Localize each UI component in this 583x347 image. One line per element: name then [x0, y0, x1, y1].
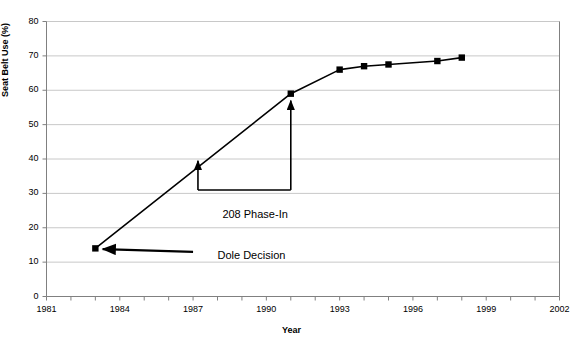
annotation-label-phase-in: 208 Phase-In: [222, 208, 287, 220]
y-tick-label: 20: [0, 222, 39, 232]
y-tick-label: 80: [0, 16, 39, 26]
x-axis-title: Year: [0, 325, 583, 335]
annotation-label-dole-decision: Dole Decision: [218, 249, 286, 261]
y-tick-label: 70: [0, 50, 39, 60]
x-tick-label: 1987: [163, 304, 223, 314]
chart-canvas: [0, 0, 583, 347]
y-tick-label: 30: [0, 187, 39, 197]
x-tick-label: 1999: [456, 304, 516, 314]
y-tick-label: 40: [0, 153, 39, 163]
x-tick-label: 2002: [530, 304, 583, 314]
data-point-marker: [434, 58, 440, 64]
y-tick-label: 0: [0, 291, 39, 301]
x-tick-label: 1990: [236, 304, 296, 314]
y-tick-label: 10: [0, 256, 39, 266]
y-tick-label: 50: [0, 119, 39, 129]
x-tick-label: 1996: [383, 304, 443, 314]
x-tick-label: 1981: [17, 304, 77, 314]
data-point-marker: [361, 63, 367, 69]
x-tick-label: 1984: [90, 304, 150, 314]
data-point-marker: [92, 245, 98, 251]
data-point-marker: [459, 54, 465, 60]
x-tick-label: 1993: [310, 304, 370, 314]
data-point-marker: [336, 66, 342, 72]
dole-decision-arrow: [103, 249, 193, 252]
data-point-marker: [288, 90, 294, 96]
seat-belt-use-line-chart: Seat Belt Use (%) Year 01020304050607080…: [0, 0, 583, 347]
data-point-marker: [385, 61, 391, 67]
y-tick-label: 60: [0, 84, 39, 94]
series-line-seat-belt-use: [95, 58, 461, 249]
